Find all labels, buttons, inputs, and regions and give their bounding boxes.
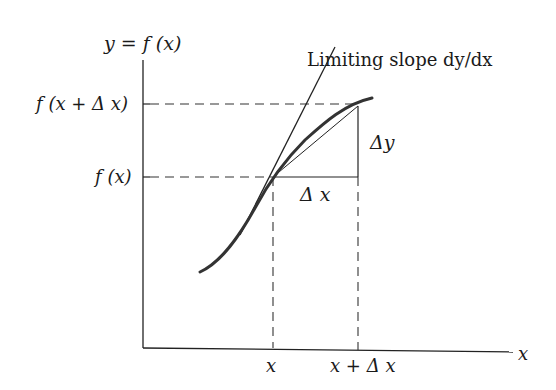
- delta-x-label: Δ x: [299, 183, 331, 205]
- guide-lines: [150, 104, 358, 350]
- y-tick-f-x: f (x): [93, 166, 132, 187]
- y-tick-f-x-plus-dx: f (x + Δ x): [34, 93, 128, 114]
- delta-triangle: [273, 106, 358, 177]
- y-axis-label: y = f (x): [103, 32, 181, 54]
- delta-y-label: Δy: [369, 131, 395, 153]
- x-axis: [143, 348, 513, 352]
- tangent-label: Limiting slope dy/dx: [307, 49, 493, 70]
- x-axis-label: x: [518, 343, 528, 364]
- function-curve: [200, 98, 372, 272]
- derivative-diagram: y = f (x) Limiting slope dy/dx f (x + Δ …: [0, 0, 556, 390]
- x-tick-x: x: [266, 355, 276, 376]
- x-tick-x-plus-dx: x + Δ x: [330, 355, 396, 376]
